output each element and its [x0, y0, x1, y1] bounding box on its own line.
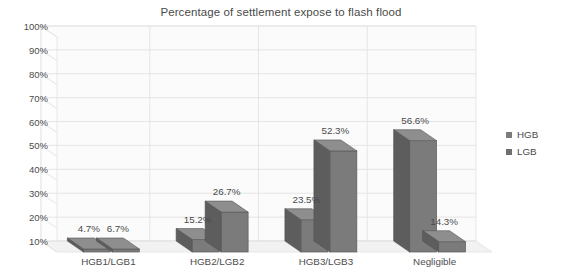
y-axis-tick-label: 70% — [4, 92, 48, 103]
y-axis-tick-label: 100% — [4, 21, 48, 32]
y-axis-tick-label: 40% — [4, 164, 48, 175]
y-axis-tick-label: 90% — [4, 44, 48, 55]
legend-label: HGB — [517, 130, 538, 140]
y-axis: 100%90%80%70%60%50%40%30%20%10% — [0, 0, 48, 279]
y-axis-tick-label: 20% — [4, 212, 48, 223]
y-axis-tick-label: 50% — [4, 140, 48, 151]
x-axis-tick-label: HGB1/LGB1 — [81, 256, 135, 267]
bar-value-label: 15.2% — [184, 214, 212, 225]
y-axis-tick-label: 10% — [4, 236, 48, 247]
bar-value-label: 4.7% — [78, 223, 100, 234]
x-axis: HGB1/LGB1HGB2/LGB2HGB3/LGB3Negligible — [0, 256, 562, 276]
legend-label: LGB — [517, 147, 537, 157]
legend-swatch-icon — [506, 132, 512, 138]
bar-value-label: 14.3% — [430, 216, 458, 227]
bar-HGB2-LGB2-LGB — [205, 201, 248, 252]
bar-value-label: 56.6% — [401, 115, 429, 126]
bar-value-label: 6.7% — [107, 223, 129, 234]
x-axis-tick-label: HGB2/LGB2 — [190, 256, 244, 267]
y-axis-tick-label: 80% — [4, 68, 48, 79]
legend-item-lgb[interactable]: LGB — [506, 143, 558, 160]
legend-swatch-icon — [506, 149, 512, 155]
y-axis-tick-label: 60% — [4, 116, 48, 127]
bar-value-label: 52.3% — [321, 125, 349, 136]
chart-container: Percentage of settlement expose to flash… — [0, 0, 562, 279]
y-axis-tick-label: 30% — [4, 188, 48, 199]
legend-item-hgb[interactable]: HGB — [506, 126, 558, 143]
bar-value-label: 26.7% — [213, 186, 241, 197]
x-axis-tick-label: HGB3/LGB3 — [299, 256, 353, 267]
bar-value-label: 23.5% — [292, 194, 320, 205]
x-axis-tick-label: Negligible — [413, 256, 456, 267]
plot-area — [0, 0, 562, 279]
chart-legend: HGBLGB — [506, 126, 558, 160]
